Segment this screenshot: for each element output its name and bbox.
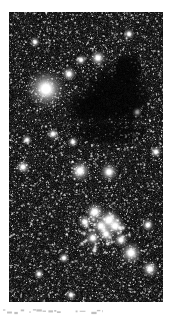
- star-field-canvas: [9, 12, 163, 302]
- caption-noise-line: [3, 307, 103, 315]
- astronomical-plate-image: [9, 12, 163, 302]
- caption-strip: [3, 307, 103, 315]
- figure-root: [0, 0, 174, 322]
